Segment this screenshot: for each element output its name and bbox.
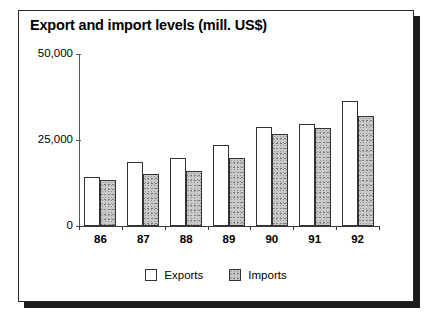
bar-imports-91: [315, 128, 331, 226]
chart-figure: Export and import levels (mill. US$) 025…: [0, 0, 438, 328]
x-tick-mark: [250, 226, 251, 230]
bar-exports-86: [84, 177, 100, 226]
y-axis-tick-label: 25,000: [38, 133, 73, 145]
x-tick-mark: [165, 226, 166, 230]
x-tick-mark: [336, 226, 337, 230]
bar-imports-86: [100, 180, 116, 226]
y-tick-label-holder: 50,000: [19, 47, 73, 59]
y-tick-label-holder: 0: [19, 219, 73, 231]
x-axis-tick-label: 92: [338, 233, 378, 245]
bar-exports-87: [127, 162, 143, 226]
chart-frame: Export and import levels (mill. US$) 025…: [18, 10, 414, 302]
bar-imports-92: [358, 116, 374, 226]
x-axis-tick-label: 91: [295, 233, 335, 245]
bar-imports-88: [186, 171, 202, 226]
x-tick-mark: [79, 226, 80, 230]
x-tick-mark: [379, 226, 380, 230]
bar-imports-90: [272, 134, 288, 226]
legend-swatch-imports-icon: [229, 269, 241, 281]
y-tick-mark: [76, 54, 81, 55]
x-axis-tick-label: 90: [252, 233, 292, 245]
plot-area: 025,00050,000 86878889909192: [19, 11, 413, 301]
legend-item-exports: Exports: [145, 269, 203, 281]
chart-legend: ExportsImports: [19, 269, 413, 281]
bar-exports-89: [213, 145, 229, 226]
x-axis-line: [79, 226, 379, 227]
y-axis-tick-label: 50,000: [38, 47, 73, 59]
y-tick-label-holder: 25,000: [19, 133, 73, 145]
bar-exports-92: [342, 101, 358, 226]
y-axis-tick-label: 0: [67, 219, 73, 231]
x-axis-tick-label: 89: [209, 233, 249, 245]
legend-label: Imports: [248, 269, 286, 281]
y-tick-mark: [76, 140, 81, 141]
x-tick-mark: [122, 226, 123, 230]
bar-imports-87: [143, 174, 159, 226]
bar-exports-91: [299, 124, 315, 226]
bar-imports-89: [229, 158, 245, 226]
x-axis-tick-label: 88: [166, 233, 206, 245]
legend-label: Exports: [164, 269, 203, 281]
bar-exports-88: [170, 158, 186, 226]
legend-item-imports: Imports: [229, 269, 286, 281]
x-axis-tick-label: 87: [123, 233, 163, 245]
x-axis-tick-label: 86: [80, 233, 120, 245]
x-tick-mark: [208, 226, 209, 230]
legend-swatch-exports-icon: [145, 269, 157, 281]
bar-exports-90: [256, 127, 272, 226]
x-tick-mark: [293, 226, 294, 230]
